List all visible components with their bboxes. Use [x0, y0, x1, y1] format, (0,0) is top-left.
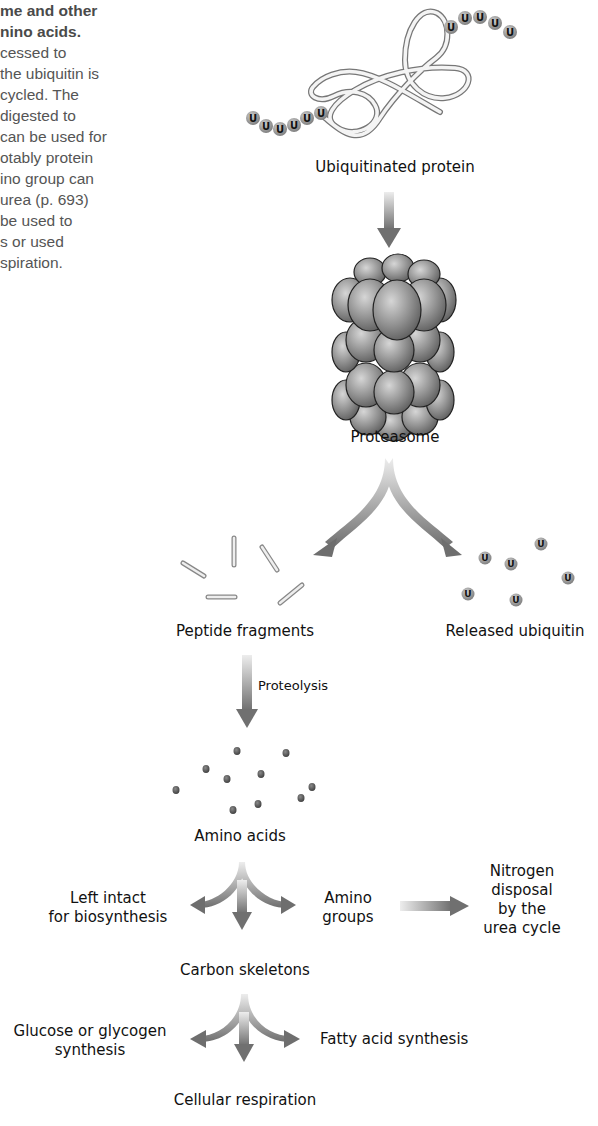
- label-amino-groups: Amino groups: [318, 889, 378, 927]
- label-ubiquitinated-protein: Ubiquitinated protein: [310, 158, 480, 177]
- label-proteasome: Proteasome: [330, 428, 460, 447]
- svg-text:U: U: [262, 121, 270, 132]
- label-cellular-respiration: Cellular respiration: [155, 1091, 335, 1110]
- ubiquitin-chain-left: U U U U U U: [246, 106, 328, 136]
- label-amino-acids: Amino acids: [180, 827, 300, 846]
- peptide-fragments-icon: [183, 538, 302, 603]
- svg-text:U: U: [464, 589, 471, 599]
- proteasome-icon: [332, 254, 456, 441]
- pathway-diagram: U U U U U U U U U U U: [0, 0, 598, 1126]
- svg-text:U: U: [461, 13, 469, 24]
- fork-arrow-icon: [313, 458, 462, 557]
- carbon-skeletons-branch-arrow-icon: [190, 994, 300, 1062]
- label-left-intact: Left intact for biosynthesis: [38, 889, 178, 927]
- svg-text:U: U: [249, 113, 257, 124]
- label-released-ubiquitin: Released ubiquitin: [432, 622, 598, 641]
- label-carbon-skeletons: Carbon skeletons: [170, 961, 320, 980]
- label-fatty-acid-synthesis: Fatty acid synthesis: [320, 1030, 468, 1049]
- arrow-down-icon: [377, 192, 401, 248]
- svg-text:U: U: [537, 539, 544, 549]
- label-nitrogen-disposal: Nitrogen disposal by the urea cycle: [472, 862, 572, 938]
- svg-text:U: U: [564, 573, 571, 583]
- svg-text:U: U: [476, 12, 484, 23]
- svg-text:U: U: [447, 22, 455, 33]
- svg-text:U: U: [512, 595, 519, 605]
- svg-text:U: U: [290, 120, 298, 131]
- svg-text:U: U: [317, 108, 325, 119]
- svg-text:U: U: [276, 124, 284, 135]
- svg-text:U: U: [303, 113, 311, 124]
- amino-acids-branch-arrow-icon: [190, 862, 296, 930]
- svg-text:U: U: [506, 27, 514, 38]
- ubiquitin-chain-right: U U U U U: [444, 10, 517, 39]
- label-peptide-fragments: Peptide fragments: [165, 622, 325, 641]
- svg-text:U: U: [491, 18, 499, 29]
- amino-acid-dots-icon: [173, 747, 316, 814]
- label-proteolysis: Proteolysis: [258, 676, 328, 695]
- svg-text:U: U: [481, 553, 488, 563]
- released-ubiquitin-icon: U U U U U U: [462, 538, 575, 607]
- arrow-right-icon: [400, 896, 469, 916]
- proteolysis-arrow-icon: [236, 655, 258, 728]
- label-glucose-glycogen: Glucose or glycogen synthesis: [0, 1022, 180, 1060]
- svg-text:U: U: [507, 559, 514, 569]
